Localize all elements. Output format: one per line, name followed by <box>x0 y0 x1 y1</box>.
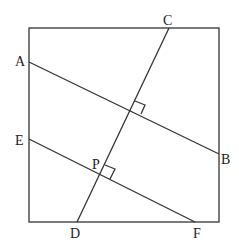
segment-cd <box>77 28 169 222</box>
label-f: F <box>193 226 201 241</box>
label-c: C <box>163 13 172 28</box>
geometry-diagram: A B C D E F P <box>0 0 239 247</box>
square <box>29 28 219 222</box>
label-b: B <box>221 152 230 167</box>
label-p: P <box>92 157 100 172</box>
right-angle-mark-ab-cd <box>135 101 145 114</box>
right-angle-mark-p <box>105 165 115 179</box>
label-e: E <box>15 133 24 148</box>
label-d: D <box>70 226 80 241</box>
segment-ab <box>29 62 219 154</box>
segment-ef <box>29 139 195 222</box>
label-a: A <box>15 54 26 69</box>
